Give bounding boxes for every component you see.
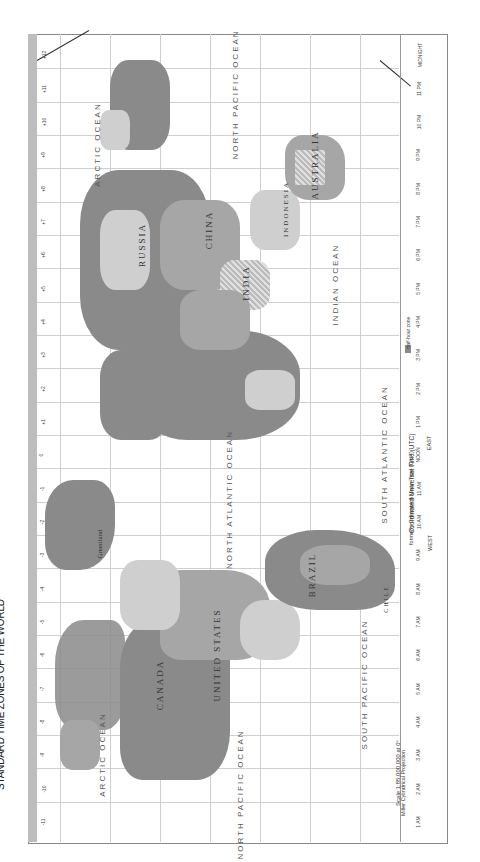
time-label: 2 AM xyxy=(415,783,421,794)
meridian-line xyxy=(37,802,399,803)
zone-label: +8 xyxy=(40,186,46,192)
meridian-line xyxy=(37,68,399,69)
zone-label: +4 xyxy=(40,319,46,325)
ocean-label: SOUTH PACIFIC OCEAN xyxy=(360,620,369,750)
time-label: 11 PM xyxy=(416,82,422,96)
time-label: 4 PM xyxy=(415,316,421,328)
zone-label: +1 xyxy=(40,419,46,425)
country-label: INDONESIA xyxy=(282,181,290,237)
zone-label: -5 xyxy=(39,620,45,624)
legend-east: EAST xyxy=(426,436,432,450)
ocean-label: ARCTIC OCEAN xyxy=(93,102,102,186)
grid-line xyxy=(260,34,261,842)
meridian-line xyxy=(37,135,399,136)
country-label: AUSTRALIA xyxy=(310,131,320,200)
zone-label: +10 xyxy=(41,118,47,126)
ocean-label: NORTH ATLANTIC OCEAN xyxy=(225,430,234,569)
landmass-alaska xyxy=(60,720,100,770)
zone-label: -6 xyxy=(39,653,45,657)
zone-label: +5 xyxy=(40,286,46,292)
landmass-europe xyxy=(100,350,170,440)
zone-label: +9 xyxy=(40,152,46,158)
zone-label: -10 xyxy=(41,785,47,792)
time-label: 4 AM xyxy=(415,716,421,727)
time-label: 3 PM xyxy=(415,349,421,361)
time-label: 6 AM xyxy=(415,649,421,660)
map-projection: Miller Cylindrical Projection xyxy=(400,750,406,816)
time-label: 3 AM xyxy=(415,749,421,760)
country-label: BRAZIL xyxy=(307,553,317,598)
country-label: CHINA xyxy=(204,211,214,250)
time-label: 8 PM xyxy=(415,183,421,195)
ocean-label: NORTH PACIFIC OCEAN xyxy=(236,729,245,859)
time-label: 8 AM xyxy=(415,583,421,594)
legend-west: WEST xyxy=(427,535,433,551)
time-label: 7 AM xyxy=(415,616,421,627)
time-label: 7 PM xyxy=(415,216,421,228)
ocean-label: ARCTIC OCEAN xyxy=(98,712,107,796)
country-label: CHILE xyxy=(383,585,389,613)
time-label: MIDNIGHT xyxy=(417,43,423,68)
ocean-label: INDIAN OCEAN xyxy=(331,244,340,326)
zone-label: +6 xyxy=(40,252,46,258)
zone-label: -4 xyxy=(39,587,45,591)
time-label: 10 PM xyxy=(416,115,422,129)
legend-subtitle: formerly Greenwich Mean Time (GMT) xyxy=(408,451,414,545)
landmass-middle-east xyxy=(180,290,250,350)
zone-label: +7 xyxy=(40,219,46,225)
ocean-label: SOUTH ATLANTIC OCEAN xyxy=(380,385,389,524)
zone-label: +11 xyxy=(41,85,47,93)
zone-label: +3 xyxy=(40,352,46,358)
landmass-canada-islands xyxy=(55,620,125,730)
time-label: 6 PM xyxy=(415,249,421,261)
zone-label: -7 xyxy=(39,687,45,691)
country-label: INDIA xyxy=(241,265,251,301)
title-bar xyxy=(28,34,37,842)
utc-legend: Coordinated Universal Time (UTC) formerl… xyxy=(402,420,444,580)
time-label: 1 AM xyxy=(415,816,421,827)
zone-label: -3 xyxy=(39,553,45,557)
ocean-label: NORTH PACIFIC OCEAN xyxy=(231,29,240,159)
time-label: 2 PM xyxy=(415,383,421,395)
landmass-greenland xyxy=(45,480,115,570)
meridian-line xyxy=(37,468,399,469)
zone-label: -9 xyxy=(39,753,45,757)
time-label: 9 PM xyxy=(415,149,421,161)
country-label: UNITED STATES xyxy=(212,608,222,701)
zone-label: 0 xyxy=(38,454,44,457)
zone-label: -11 xyxy=(40,819,46,826)
zone-label: -8 xyxy=(39,720,45,724)
landmass-southeast-asia xyxy=(250,190,300,250)
landmass-north-america-east-light xyxy=(120,560,180,630)
legend-half-hour: Half-hour zone xyxy=(405,317,411,350)
map-title: STANDARD TIME ZONES OF THE WORLD xyxy=(0,599,6,790)
country-label: Greenland xyxy=(96,529,104,558)
landmass-central-america xyxy=(240,600,300,660)
time-label: 5 AM xyxy=(415,683,421,694)
time-label: 5 PM xyxy=(415,283,421,295)
meridian-line xyxy=(37,102,399,103)
landmass-chukotka xyxy=(100,110,130,150)
country-label: CANADA xyxy=(155,660,165,711)
zone-label: +2 xyxy=(40,386,46,392)
zone-label: -1 xyxy=(39,487,45,491)
landmass-southern-africa xyxy=(245,370,295,410)
country-label: RUSSIA xyxy=(137,223,147,267)
